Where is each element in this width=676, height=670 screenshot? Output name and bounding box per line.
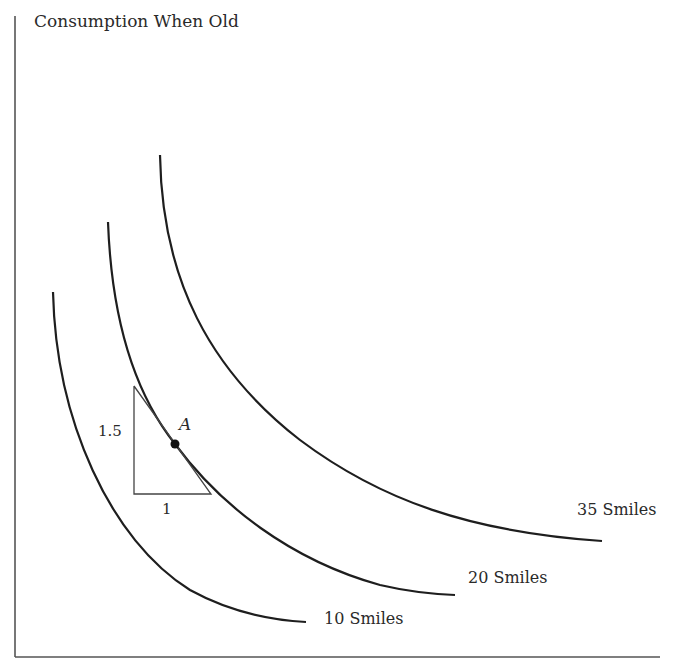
point-a-label: A [179,414,191,434]
indifference-curve-diagram [0,0,676,670]
curve-20-smiles [108,222,455,595]
point-a-marker [171,440,180,449]
curve-label-10-smiles: 10 Smiles [324,609,404,628]
y-axis-label: Consumption When Old [34,11,239,31]
curve-10-smiles [53,292,306,622]
slope-run-label: 1 [162,500,172,518]
curve-35-smiles [160,155,602,541]
curve-label-20-smiles: 20 Smiles [468,568,548,587]
slope-rise-label: 1.5 [98,422,122,440]
slope-triangle [134,386,211,494]
curve-label-35-smiles: 35 Smiles [577,500,657,519]
